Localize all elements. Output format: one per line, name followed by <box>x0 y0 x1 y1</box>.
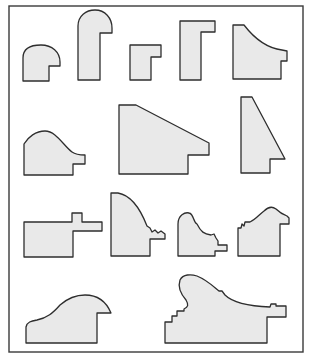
moulding-profiles-diagram <box>0 0 313 361</box>
